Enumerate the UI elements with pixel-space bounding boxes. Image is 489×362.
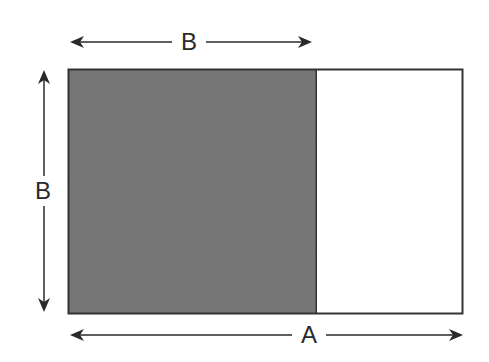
bottom-label: A [298, 323, 320, 347]
top-label: B [178, 30, 200, 54]
shaded-square [69, 70, 317, 314]
left-label: B [32, 179, 54, 203]
diagram-canvas [0, 0, 489, 362]
